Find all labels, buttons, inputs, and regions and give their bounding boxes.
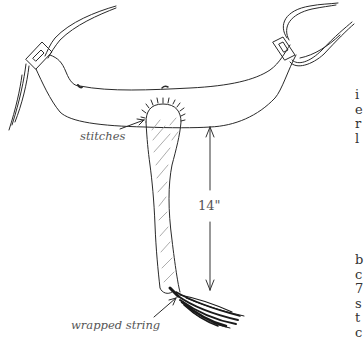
margin-text-block-1: i e r l (355, 88, 364, 146)
tassel (170, 288, 244, 328)
left-cord (9, 6, 116, 130)
margin-text-block-2: b c 7 s t c (355, 253, 364, 340)
wrapped-string-label: wrapped string (71, 318, 160, 332)
stitches-label: stitches (80, 129, 125, 143)
right-cord (283, 3, 354, 66)
stitches-arrow (120, 119, 144, 129)
left-buckle (26, 42, 52, 69)
strap-band (36, 45, 296, 128)
stitches (141, 98, 185, 121)
strap-illustration (0, 0, 364, 346)
wrapped-string-arrow (154, 298, 176, 317)
right-buckle (273, 37, 295, 60)
length-measurement: 14" (198, 198, 221, 213)
